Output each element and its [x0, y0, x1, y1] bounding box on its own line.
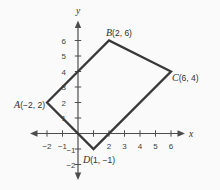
y-axis-label: y [75, 6, 81, 16]
y-tick-label: 6 [62, 37, 67, 46]
y-axis-down-arrow-icon [75, 173, 81, 181]
y-tick-label: 2 [62, 99, 67, 108]
x-tick-label: 6 [169, 142, 174, 151]
x-tick-label: 4 [138, 142, 143, 151]
y-tick-label: 5 [62, 52, 67, 61]
vertex-label-c: C(6, 4) [172, 72, 199, 83]
x-axis-right-arrow-icon [178, 130, 186, 136]
x-tick-label: 2 [107, 142, 112, 151]
x-axis-left-arrow-icon [30, 130, 38, 136]
y-tick-label: −2 [66, 161, 76, 170]
y-axis-up-arrow-icon [75, 21, 81, 29]
y-tick-label: 4 [62, 68, 67, 77]
y-tick-label: −1 [66, 146, 76, 155]
coordinate-plane: xy−2−123456654321−1−2A(−2, 2)B(2, 6)C(6,… [0, 0, 220, 190]
vertex-label-d: D(1, −1) [82, 154, 115, 165]
x-tick-label: 3 [122, 142, 127, 151]
coordinate-plane-figure: xy−2−123456654321−1−2A(−2, 2)B(2, 6)C(6,… [0, 0, 220, 190]
vertex-label-a: A(−2, 2) [13, 99, 45, 110]
vertex-label-b: B(2, 6) [106, 27, 132, 38]
x-tick-label: 5 [153, 142, 158, 151]
x-axis-label: x [188, 129, 194, 139]
x-tick-label: −2 [42, 142, 52, 151]
